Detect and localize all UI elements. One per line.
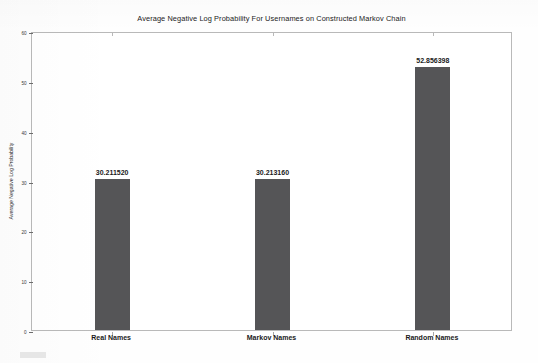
chart-title: Average Negative Log Probability For Use… xyxy=(30,14,513,23)
y-axis-tick: 20 xyxy=(29,232,33,233)
y-axis-tick: 10 xyxy=(29,282,33,283)
bar: 52.856398 xyxy=(415,67,450,330)
y-axis-tick-label: 0 xyxy=(24,330,27,335)
y-axis-tick-label: 30 xyxy=(21,180,26,185)
y-axis-tick: 50 xyxy=(29,83,33,84)
x-axis-category-label: Random Names xyxy=(405,334,458,341)
bar-value-label: 30.211520 xyxy=(96,169,129,176)
y-axis-tick-label: 50 xyxy=(21,80,26,85)
bar: 30.213160 xyxy=(255,179,290,330)
x-axis-category-label: Markov Names xyxy=(247,334,296,341)
x-axis-category-label: Real Names xyxy=(91,334,131,341)
y-axis-tick-label: 60 xyxy=(21,31,26,36)
y-axis-title: Average Negative Log Probability xyxy=(8,143,14,220)
y-axis-tick: 0 xyxy=(29,332,33,333)
plot-inner: 010203040506030.21152030.21316052.856398 xyxy=(32,33,511,330)
y-axis-tick-label: 10 xyxy=(21,280,26,285)
plot-area: 010203040506030.21152030.21316052.856398 xyxy=(31,32,512,331)
figure-canvas: Average Negative Log Probability For Use… xyxy=(0,0,538,363)
bar: 30.211520 xyxy=(95,179,130,330)
y-axis-tick-label: 20 xyxy=(21,230,26,235)
x-axis-tick-top xyxy=(433,33,434,36)
y-axis-tick: 40 xyxy=(29,133,33,134)
x-axis-tick-top xyxy=(273,33,274,36)
x-axis-tick-top xyxy=(112,33,113,36)
y-axis-tick: 30 xyxy=(29,183,33,184)
scan-artifact xyxy=(20,352,46,358)
y-axis-tick: 60 xyxy=(29,33,33,34)
y-axis-tick-label: 40 xyxy=(21,130,26,135)
bar-value-label: 52.856398 xyxy=(416,57,449,64)
bar-value-label: 30.213160 xyxy=(256,169,289,176)
